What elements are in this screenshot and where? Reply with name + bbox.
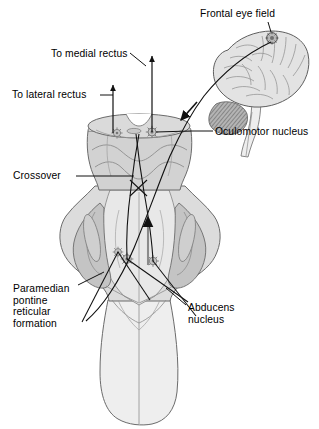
anatomy-illustration <box>0 0 319 429</box>
label-to-lateral-rectus: To lateral rectus <box>12 89 86 101</box>
descending-tract-arrow <box>181 102 197 120</box>
label-frontal-eye-field: Frontal eye field <box>200 8 275 20</box>
brainstem-group <box>60 114 220 425</box>
label-paramedian-pontine-reticular-formation: Paramedian pontine reticular formation <box>13 283 70 329</box>
label-to-medial-rectus: To medial rectus <box>51 48 128 60</box>
cerebrum <box>213 31 308 107</box>
aqueduct <box>127 128 141 133</box>
label-oculomotor-nucleus: Oculomotor nucleus <box>215 126 308 138</box>
label-crossover: Crossover <box>13 170 61 182</box>
to-medial-rectus-leader <box>130 53 146 66</box>
frontal-eye-field-leader <box>268 22 271 32</box>
label-abducens-nucleus: Abducens nucleus <box>188 302 235 325</box>
anatomy-figure: Frontal eye field To medial rectus To la… <box>0 0 319 429</box>
